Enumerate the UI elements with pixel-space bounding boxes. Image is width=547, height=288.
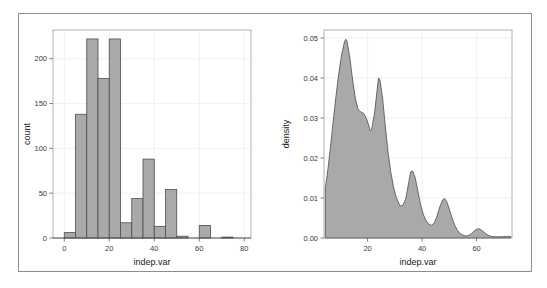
xtick-label-4: 80 bbox=[240, 244, 248, 253]
histogram-bar bbox=[121, 223, 132, 238]
figure-root: 050100150200020406080indep.varcount 0.00… bbox=[0, 0, 547, 288]
xtick-label-2: 60 bbox=[472, 244, 480, 253]
xtick-label-0: 20 bbox=[363, 244, 371, 253]
dens-svg-yaxis-title: density bbox=[281, 119, 291, 148]
histogram-bar bbox=[76, 114, 87, 238]
ytick-label-5: 0.05 bbox=[303, 34, 318, 43]
figure-outer-frame: 050100150200020406080indep.varcount 0.00… bbox=[18, 13, 532, 272]
histogram-bar bbox=[132, 199, 143, 238]
ytick-label-4: 200 bbox=[34, 54, 47, 63]
density-panel: 0.000.010.020.030.040.05204060indep.vard… bbox=[276, 14, 533, 273]
ytick-label-0: 0 bbox=[43, 234, 47, 243]
ytick-label-2: 100 bbox=[34, 144, 47, 153]
histogram-panel: 050100150200020406080indep.varcount bbox=[19, 14, 276, 273]
ytick-label-3: 0.03 bbox=[303, 114, 318, 123]
histogram-svg: 050100150200020406080indep.varcount bbox=[19, 14, 276, 273]
hist-svg-yaxis-title: count bbox=[22, 122, 32, 145]
dens-svg-xaxis-title: indep.var bbox=[399, 257, 436, 267]
histogram-bar bbox=[166, 190, 177, 238]
histogram-bar bbox=[154, 226, 165, 238]
histogram-bar bbox=[199, 225, 210, 238]
xtick-label-0: 0 bbox=[62, 244, 66, 253]
histogram-bar bbox=[87, 39, 98, 238]
ytick-label-0: 0.00 bbox=[303, 234, 318, 243]
histogram-bar bbox=[98, 78, 109, 238]
xtick-label-2: 40 bbox=[150, 244, 158, 253]
ytick-label-1: 0.01 bbox=[303, 194, 318, 203]
xtick-label-1: 40 bbox=[418, 244, 426, 253]
xtick-label-3: 60 bbox=[195, 244, 203, 253]
ytick-label-1: 50 bbox=[39, 189, 47, 198]
xtick-label-1: 20 bbox=[105, 244, 113, 253]
hist-svg-xaxis-title: indep.var bbox=[133, 257, 170, 267]
histogram-bar bbox=[143, 159, 154, 238]
ytick-label-2: 0.02 bbox=[303, 154, 318, 163]
histogram-bar bbox=[64, 233, 75, 238]
ytick-label-4: 0.04 bbox=[303, 74, 318, 83]
density-svg: 0.000.010.020.030.040.05204060indep.vard… bbox=[276, 14, 533, 273]
histogram-bar bbox=[109, 39, 120, 238]
ytick-label-3: 150 bbox=[34, 99, 47, 108]
